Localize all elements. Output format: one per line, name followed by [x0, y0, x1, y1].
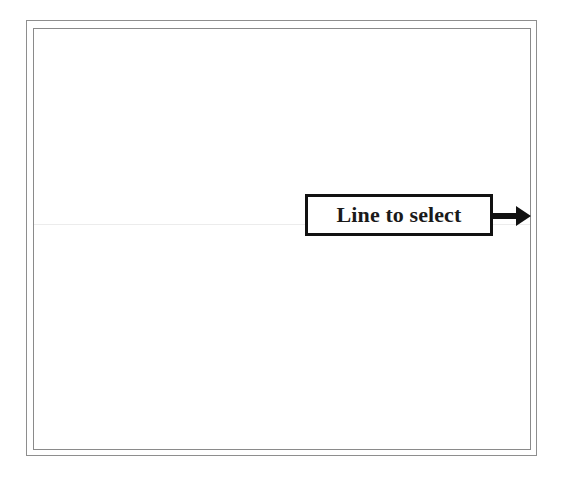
callout-box[interactable]: Line to select	[305, 194, 493, 236]
callout-label: Line to select	[337, 204, 462, 226]
figure-canvas	[34, 29, 530, 449]
figure-root: Line to select	[0, 0, 566, 479]
arrow-right-icon	[492, 203, 532, 229]
